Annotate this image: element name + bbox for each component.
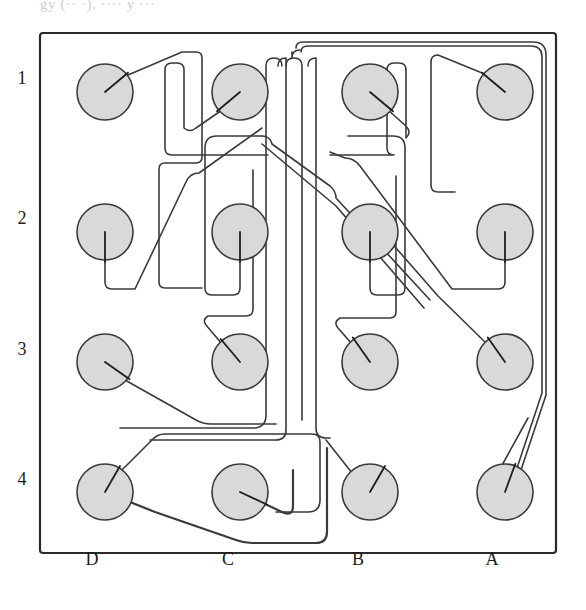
pad-B3[interactable]	[342, 334, 398, 390]
pad-B4[interactable]	[342, 464, 398, 520]
pad-A4[interactable]	[477, 464, 533, 520]
column-label-A: A	[486, 549, 499, 569]
column-label-C: C	[222, 549, 234, 569]
row-label-4: 4	[18, 469, 27, 489]
row-label-2: 2	[18, 208, 27, 228]
routing-diagram: 1234 DCBA	[0, 0, 586, 610]
row-label-layer: 1234	[18, 68, 27, 489]
pad-A3[interactable]	[477, 334, 533, 390]
pad-C1[interactable]	[212, 64, 268, 120]
pad-D1[interactable]	[77, 64, 133, 120]
pad-D4[interactable]	[77, 464, 133, 520]
pad-C4[interactable]	[212, 464, 268, 520]
pad-D3[interactable]	[77, 334, 133, 390]
pad-B1[interactable]	[342, 64, 398, 120]
row-label-1: 1	[18, 68, 27, 88]
column-label-D: D	[86, 549, 99, 569]
pad-A1[interactable]	[477, 64, 533, 120]
row-label-3: 3	[18, 339, 27, 359]
column-label-B: B	[352, 549, 364, 569]
pad-C3[interactable]	[212, 334, 268, 390]
